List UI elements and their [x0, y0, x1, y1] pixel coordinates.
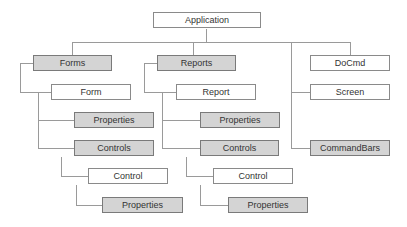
- connector: [291, 148, 310, 149]
- node-report-controls: Controls: [200, 140, 279, 156]
- connector: [193, 42, 194, 55]
- connector: [162, 148, 200, 149]
- node-docmd: DoCmd: [310, 55, 390, 71]
- connector: [72, 42, 73, 55]
- connector: [291, 92, 310, 93]
- node-commandbars: CommandBars: [310, 140, 390, 156]
- connector: [200, 205, 228, 206]
- connector: [200, 185, 201, 205]
- connector: [76, 205, 102, 206]
- node-report: Report: [176, 84, 256, 100]
- node-form-control-properties: Properties: [102, 197, 183, 213]
- connector: [20, 63, 33, 64]
- node-forms: Forms: [33, 55, 112, 71]
- connector: [206, 29, 207, 42]
- connector: [144, 63, 145, 92]
- connector: [76, 185, 77, 205]
- node-form-controls: Controls: [74, 140, 154, 156]
- connector: [20, 63, 21, 92]
- connector: [144, 63, 157, 64]
- node-screen: Screen: [310, 84, 390, 100]
- node-report-properties: Properties: [200, 112, 280, 128]
- node-form-properties: Properties: [74, 112, 154, 128]
- connector: [61, 157, 62, 176]
- connector: [162, 120, 200, 121]
- node-form-control: Control: [88, 168, 168, 184]
- connector: [144, 92, 176, 93]
- connector: [291, 42, 292, 149]
- connector: [186, 176, 213, 177]
- node-report-control: Control: [213, 168, 293, 184]
- connector: [20, 92, 51, 93]
- node-report-control-properties: Properties: [228, 197, 308, 213]
- connector: [350, 42, 351, 55]
- connector: [38, 148, 74, 149]
- node-reports: Reports: [157, 55, 236, 71]
- connector: [186, 157, 187, 176]
- node-form: Form: [51, 84, 131, 100]
- node-application: Application: [153, 12, 261, 28]
- connector: [72, 42, 350, 43]
- connector: [61, 176, 88, 177]
- connector: [38, 120, 74, 121]
